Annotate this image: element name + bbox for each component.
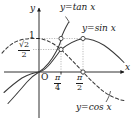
y-tick-denominator: 2 <box>18 51 30 59</box>
x-tick-label-pi-over-4: π 4 <box>54 74 61 92</box>
x-tick-label-pi-over-2: π 2 <box>76 74 83 92</box>
point-sin-equals-cos-at-pi-over-4 <box>59 47 63 51</box>
leader-line-cos <box>106 91 111 102</box>
plot-canvas <box>0 0 133 124</box>
point-tan-equals-1-at-pi-over-4 <box>59 36 63 40</box>
y-tick-label-one: 1 <box>29 31 35 40</box>
origin-label: O <box>41 73 48 82</box>
curve-label-sin: y=sin x <box>82 24 116 33</box>
curve-label-cos: y=cos x <box>76 103 112 112</box>
point-sin-maximum-at-pi-over-2 <box>81 36 85 40</box>
trig-function-graph-figure: y x O y=tan x y=sin x y=cos x 1 √2 2 π 4… <box>0 0 133 124</box>
y-axis-label: y <box>30 4 35 13</box>
guide-lines <box>33 39 83 73</box>
x-axis-label: x <box>125 63 130 72</box>
x-tick-numerator: π <box>54 74 61 82</box>
y-tick-numerator: √2 <box>18 41 30 49</box>
x-tick-denominator: 4 <box>54 84 61 92</box>
leader-line-tan <box>66 17 70 23</box>
curve-label-tan: y=tan x <box>60 3 95 12</box>
y-tick-label-sqrt2-over-2: √2 2 <box>18 41 30 59</box>
x-tick-numerator: π <box>76 74 83 82</box>
x-tick-denominator: 2 <box>76 84 83 92</box>
